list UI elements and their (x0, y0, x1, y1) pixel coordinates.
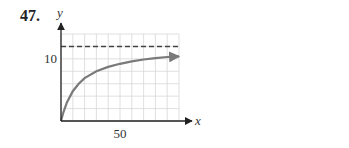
x-tick-label: 50 (114, 126, 127, 141)
y-axis-label: y (55, 5, 63, 20)
x-axis-label: x (194, 113, 201, 128)
y-tick-label: 10 (44, 51, 57, 66)
chart: x y 50 10 (0, 0, 349, 148)
